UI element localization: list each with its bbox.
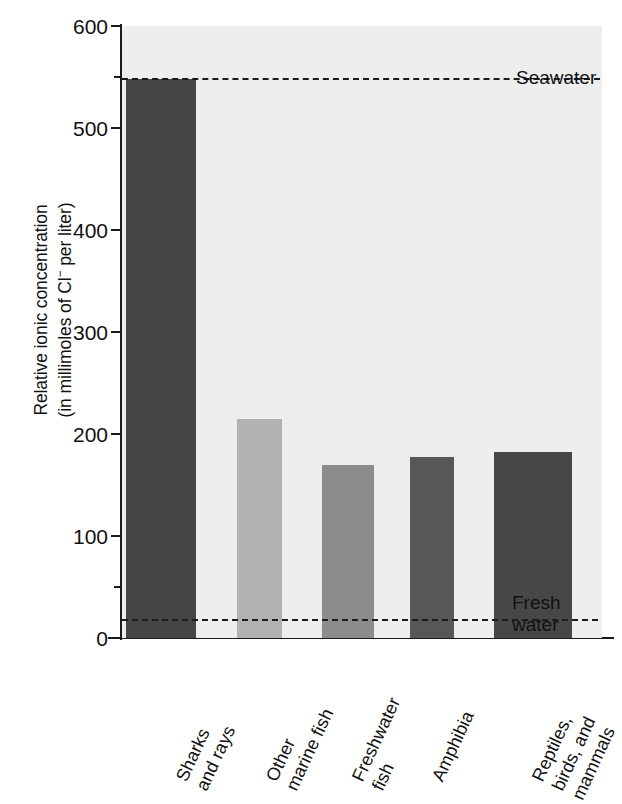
y-axis-minor-tick-mark xyxy=(114,76,122,78)
x-axis-category-label: Freshwaterfish xyxy=(348,694,426,794)
reference-line-label-line: Fresh xyxy=(512,592,561,614)
x-axis-category-label: Sharksand rays xyxy=(172,713,241,794)
y-axis-tick-label: 400 xyxy=(50,220,108,241)
y-axis-tick-label: 200 xyxy=(50,424,108,445)
x-axis-category-label: Amphibia xyxy=(428,708,480,785)
y-axis-tick-label: 500 xyxy=(50,118,108,139)
bar xyxy=(237,419,282,638)
y-axis-tick-mark xyxy=(111,25,122,27)
y-axis-tick-label: 600 xyxy=(50,16,108,37)
y-axis-tick-label: 100 xyxy=(50,526,108,547)
x-axis-category-label: Othermarine fish xyxy=(262,696,339,794)
reference-line-label: Freshwater xyxy=(512,592,561,637)
y-axis-tick-mark xyxy=(111,331,122,333)
y-axis-tick-mark xyxy=(111,433,122,435)
y-axis-tick-mark xyxy=(111,535,122,537)
plot-area xyxy=(122,26,602,638)
bar xyxy=(126,79,196,638)
x-axis-category-label-line: Amphibia xyxy=(428,708,480,785)
reference-line-label-line: water xyxy=(512,614,561,636)
reference-line-label: Seawater xyxy=(516,67,596,89)
x-axis-category-label: Reptiles,birds, andmammals xyxy=(528,704,621,803)
reference-line-label-line: Seawater xyxy=(516,67,596,89)
bar xyxy=(322,465,374,638)
bar xyxy=(410,457,454,638)
y-axis-tick-mark xyxy=(111,127,122,129)
y-axis-tick-label: 300 xyxy=(50,322,108,343)
x-axis-category-labels: Sharksand raysOthermarine fishFreshwater… xyxy=(0,638,622,784)
y-axis-tick-mark xyxy=(111,229,122,231)
y-axis-minor-tick-mark xyxy=(114,586,122,588)
